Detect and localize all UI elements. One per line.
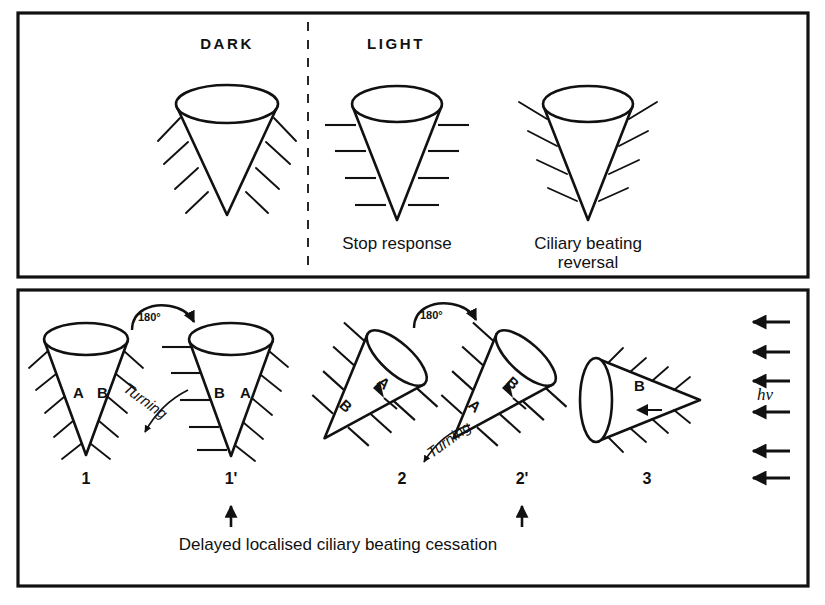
- cell-3-label-b: B: [634, 378, 645, 395]
- heading-dark: DARK: [174, 36, 280, 53]
- cell-1-number: 1: [61, 470, 111, 488]
- stop-response-cell-shape: [325, 86, 469, 220]
- cell-2-shape: [278, 305, 454, 481]
- figure-root: DARK LIGHT Stop response Ciliary beating…: [0, 0, 825, 605]
- heading-light: LIGHT: [340, 36, 452, 53]
- rotation-label-1: 180°: [138, 311, 161, 323]
- cell-1-label-b: B: [97, 385, 108, 402]
- caption-stop-response: Stop response: [327, 234, 467, 253]
- cell-1-label-a: A: [73, 385, 84, 402]
- bottom-caption: Delayed localised ciliary beating cessat…: [128, 535, 548, 554]
- cell-2-number: 2: [382, 470, 422, 488]
- rotation-label-2: 180°: [420, 309, 443, 321]
- dark-cell-shape: [158, 85, 296, 215]
- cell-2-prime-number: 2': [502, 470, 542, 488]
- cell-3-shape: [580, 348, 700, 452]
- reversal-cell-shape: [519, 86, 657, 220]
- cell-1-prime-label-b: B: [214, 385, 225, 402]
- light-energy-label: hν: [757, 385, 773, 404]
- diagram-canvas: [0, 0, 825, 605]
- cell-3-number: 3: [627, 470, 667, 488]
- cell-1-prime-shape: [162, 323, 288, 461]
- cell-1-prime-number: 1': [206, 470, 256, 488]
- cell-1-prime-label-a: A: [240, 385, 251, 402]
- caption-reversal-line1: Ciliary beating: [513, 234, 663, 253]
- caption-reversal-line2: reversal: [513, 253, 663, 272]
